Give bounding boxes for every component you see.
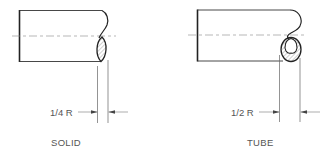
tube-dimension-label: 1/2 R xyxy=(231,107,254,118)
conventional-break-drawing: 1/4 R SOLID 1/2 R TUBE xyxy=(0,0,330,154)
tube-figure: 1/2 R TUBE xyxy=(188,10,320,149)
tube-break-curve xyxy=(288,10,302,39)
solid-break-section xyxy=(97,37,106,62)
solid-arrow-left-icon xyxy=(109,110,116,113)
tube-break-bore xyxy=(285,39,297,54)
solid-figure: 1/4 R SOLID xyxy=(12,10,128,148)
tube-title: TUBE xyxy=(247,137,274,148)
tube-arrow-left-icon xyxy=(301,110,308,113)
tube-arrow-right-icon xyxy=(273,110,280,113)
solid-dimension-label: 1/4 R xyxy=(50,107,73,118)
solid-arrow-right-icon xyxy=(91,110,98,113)
solid-break-curve xyxy=(99,11,108,39)
solid-title: SOLID xyxy=(51,137,81,148)
